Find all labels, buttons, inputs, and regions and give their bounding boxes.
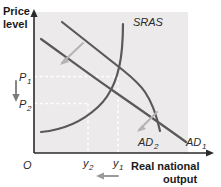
tick-label-y1-sub: 1 [119,163,123,172]
curve-label-sras: SRAS [133,16,164,28]
x-axis-arrowhead-icon [206,149,214,156]
output-fall-arrow-icon [96,172,118,179]
tick-label-y2-sub: 2 [88,163,94,172]
tick-label-p1-sub: 1 [27,77,31,86]
tick-label-p1-base: P [19,71,27,83]
curve-label-ad2-base: AD [137,136,153,148]
x-axis-title-line2: output [163,173,198,185]
tick-label-y2: y 2 [82,157,94,172]
y-axis-title-line2: level [3,18,27,30]
tick-label-p2-sub: 2 [26,104,32,113]
plot-background [34,12,188,153]
curve-label-sras-base: SRAS [133,16,164,28]
curve-label-ad2-sub: 2 [153,142,159,151]
x-axis-title-line1: Real national [131,160,199,172]
curve-label-ad1: AD 1 [185,136,206,151]
ad-as-diagram: Price level Real national output O P 1 P… [0,0,221,187]
tick-label-p1: P 1 [19,71,31,86]
diagram-canvas: Price level Real national output O P 1 P… [0,0,221,187]
tick-label-p2: P 2 [19,98,32,113]
curve-label-ad1-sub: 1 [202,142,206,151]
tick-label-y1: y 1 [112,157,123,172]
y-axis-title-line1: Price [3,5,30,17]
origin-label: O [23,159,32,171]
tick-label-p2-base: P [19,98,27,110]
curve-label-ad1-base: AD [185,136,201,148]
